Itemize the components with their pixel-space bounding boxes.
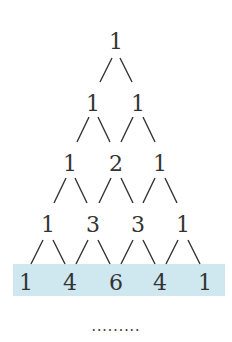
cell-r4-c4: 1 xyxy=(198,272,212,294)
cell-r2-c2: 1 xyxy=(153,153,167,175)
cell-r1-c0: 1 xyxy=(86,93,100,115)
cell-r3-c0: 1 xyxy=(41,214,55,236)
cell-r4-c0: 1 xyxy=(19,272,33,294)
cell-r1-c1: 1 xyxy=(131,93,145,115)
cell-r4-c3: 4 xyxy=(153,272,167,294)
cell-r3-c3: 1 xyxy=(176,214,190,236)
cell-r2-c1: 2 xyxy=(109,153,123,175)
cell-r3-c1: 3 xyxy=(86,214,100,236)
cell-r4-c2: 6 xyxy=(109,272,123,294)
cell-r4-c1: 4 xyxy=(63,272,77,294)
cell-r2-c0: 1 xyxy=(63,153,77,175)
continuation-dots: ......... xyxy=(0,318,232,334)
cell-r0-c0: 1 xyxy=(109,31,123,53)
cell-r3-c2: 3 xyxy=(131,214,145,236)
